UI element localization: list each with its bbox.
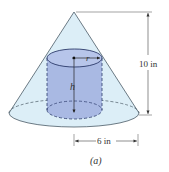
arrowhead-icon — [134, 140, 138, 143]
arrowhead-icon — [75, 140, 79, 143]
diagram-svg: r h 10 in 6 in (a) — [0, 0, 169, 172]
center-dot — [72, 56, 75, 59]
height-h-label: h — [70, 81, 75, 92]
radius-6in-label: 6 in — [97, 136, 111, 146]
arrowhead-icon — [147, 111, 150, 115]
cone-cylinder-diagram: r h 10 in 6 in (a) — [0, 0, 169, 172]
radius-r-label: r — [86, 53, 90, 63]
arrowhead-icon — [147, 13, 150, 17]
height-10in-label: 10 in — [139, 59, 158, 69]
figure-caption: (a) — [90, 155, 102, 167]
